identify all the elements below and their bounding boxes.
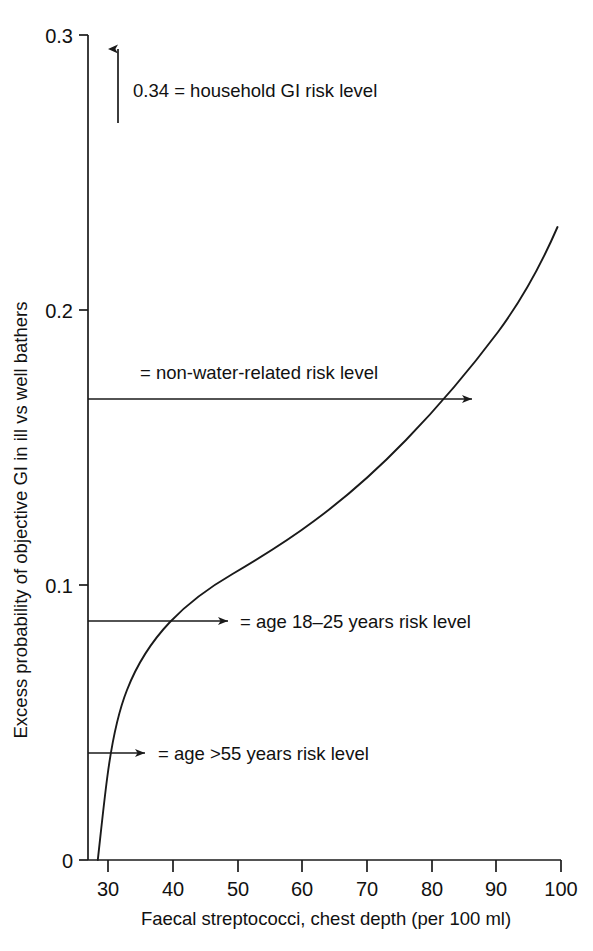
y-axis-title: Excess probability of objective GI in il… — [10, 302, 31, 739]
age-over-55-label: = age >55 years risk level — [158, 743, 369, 764]
household-gi-label: 0.34 = household GI risk level — [133, 80, 377, 101]
y-ticklabel-0: 0 — [62, 850, 73, 872]
x-ticklabel-30: 30 — [97, 878, 119, 900]
annotation-household-gi: 0.34 = household GI risk level — [118, 49, 377, 123]
x-axis-ticklabels: 30 40 50 60 70 80 90 100 — [97, 878, 578, 900]
y-axis-ticks — [79, 35, 88, 860]
x-ticklabel-70: 70 — [356, 878, 378, 900]
y-axis-ticklabels: 0.3 0.2 0.1 0 — [45, 25, 73, 872]
data-curve — [98, 227, 558, 860]
x-axis-title: Faecal streptococci, chest depth (per 10… — [141, 908, 511, 929]
x-ticklabel-40: 40 — [162, 878, 184, 900]
risk-curve-chart: 0.3 0.2 0.1 0 30 40 50 60 70 80 90 100 F… — [0, 0, 593, 951]
y-ticklabel-0.2: 0.2 — [45, 300, 73, 322]
annotation-age-over-55: = age >55 years risk level — [88, 743, 369, 764]
figure-container: 0.3 0.2 0.1 0 30 40 50 60 70 80 90 100 F… — [0, 0, 593, 951]
x-ticklabel-60: 60 — [291, 878, 313, 900]
y-ticklabel-0.3: 0.3 — [45, 25, 73, 47]
non-water-related-label: = non-water-related risk level — [140, 362, 378, 383]
x-ticklabel-50: 50 — [227, 878, 249, 900]
x-ticklabel-80: 80 — [421, 878, 443, 900]
y-ticklabel-0.1: 0.1 — [45, 575, 73, 597]
annotation-age-18-25: = age 18–25 years risk level — [88, 611, 471, 632]
axis-lines — [88, 35, 561, 860]
age-18-25-label: = age 18–25 years risk level — [240, 611, 471, 632]
x-ticklabel-90: 90 — [485, 878, 507, 900]
chart-canvas: 0.3 0.2 0.1 0 30 40 50 60 70 80 90 100 F… — [0, 0, 593, 951]
x-axis-ticks — [108, 860, 561, 872]
annotation-non-water-related: = non-water-related risk level — [88, 362, 472, 399]
x-ticklabel-100: 100 — [544, 878, 577, 900]
